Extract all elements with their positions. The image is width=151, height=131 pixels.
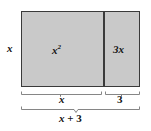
- right-region-area-label: 3x: [113, 44, 124, 55]
- right-width-label: 3: [117, 94, 123, 105]
- area-model-figure: x x2 3x x 3 x + 3: [0, 0, 151, 131]
- left-region-area-exponent: 2: [58, 43, 62, 51]
- total-width-constant: 3: [76, 112, 82, 124]
- total-width-operator: +: [65, 112, 77, 124]
- vertical-divider-line: [103, 11, 105, 87]
- left-width-label: x: [59, 94, 65, 105]
- height-label: x: [7, 43, 13, 54]
- total-width-label: x + 3: [59, 113, 82, 124]
- left-region-area-label: x2: [52, 44, 61, 56]
